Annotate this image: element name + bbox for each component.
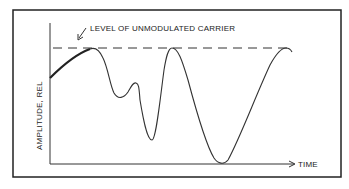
modulated-waveform xyxy=(90,48,292,163)
x-axis-label: TIME xyxy=(298,160,318,169)
modulation-diagram: LEVEL OF UNMODULATED CARRIER TIME AMPLIT… xyxy=(0,0,349,189)
annotation-leader xyxy=(79,28,86,38)
frame-border xyxy=(13,10,341,177)
annotation-arrow-icon xyxy=(78,34,83,40)
y-axis-label: AMPLITUDE, REL xyxy=(35,81,44,150)
curve-start-segment xyxy=(50,49,90,78)
carrier-annotation-label: LEVEL OF UNMODULATED CARRIER xyxy=(90,24,235,33)
